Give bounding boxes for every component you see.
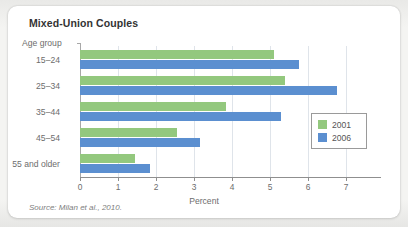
legend-item-2001: 2001 (318, 118, 366, 131)
y-axis-category-label: 55 and older (12, 159, 60, 169)
bar-2006-25–34 (80, 86, 337, 95)
x-axis-line (80, 177, 381, 178)
chart-card: Mixed-Union Couples Age group Percent 20… (8, 6, 400, 218)
source-note: Source: Milan et al., 2010. (29, 203, 122, 212)
bar-2001-45–54 (80, 128, 177, 137)
legend-label-2006: 2006 (332, 133, 351, 143)
x-axis-tick-label: 4 (230, 182, 235, 192)
page-title: Mixed-Union Couples (29, 17, 138, 29)
bar-2006-35–44 (80, 112, 281, 121)
x-axis-tick-label: 1 (116, 182, 121, 192)
gridline (346, 46, 347, 177)
bar-2006-45–54 (80, 138, 200, 147)
x-axis-tick-label: 0 (78, 182, 83, 192)
x-axis-tick (308, 178, 309, 181)
x-axis-tick (346, 178, 347, 181)
plot-area (80, 46, 365, 177)
gridline (308, 46, 309, 177)
y-axis-category-label: 35–44 (36, 107, 60, 117)
bar-2006-15–24 (80, 60, 299, 69)
x-axis-tick (118, 178, 119, 181)
legend-swatch-2006-icon (318, 133, 327, 142)
bar-2001-55-and-older (80, 154, 135, 163)
legend-item-2006: 2006 (318, 131, 366, 144)
y-axis-category-label: 15–24 (36, 55, 60, 65)
x-axis-tick (270, 178, 271, 181)
bar-2001-15–24 (80, 50, 274, 59)
legend-swatch-2001-icon (318, 120, 327, 129)
screenshot-root: Mixed-Union Couples Age group Percent 20… (0, 0, 408, 227)
x-axis-tick-label: 6 (306, 182, 311, 192)
y-axis-category-label: 25–34 (36, 81, 60, 91)
bar-2001-25–34 (80, 76, 285, 85)
x-axis-tick (156, 178, 157, 181)
y-axis-title: Age group (22, 38, 62, 48)
x-axis-tick (194, 178, 195, 181)
bar-2006-55-and-older (80, 164, 150, 173)
legend-label-2001: 2001 (332, 120, 351, 130)
x-axis-tick (80, 178, 81, 181)
x-axis-tick-label: 7 (344, 182, 349, 192)
x-axis-tick-label: 3 (192, 182, 197, 192)
x-axis-tick-label: 5 (268, 182, 273, 192)
bar-2001-35–44 (80, 102, 226, 111)
x-axis-tick-label: 2 (154, 182, 159, 192)
x-axis-tick (232, 178, 233, 181)
y-axis-top-tick (77, 43, 81, 44)
y-axis-category-label: 45–54 (36, 133, 60, 143)
chart-legend: 2001 2006 (311, 113, 367, 149)
